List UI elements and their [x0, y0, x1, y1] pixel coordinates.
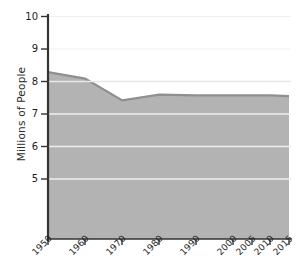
y-tick-label-5: 5 [20, 174, 38, 184]
y-tick-label-10: 10 [20, 12, 38, 22]
y-tick-label-7: 7 [20, 109, 38, 119]
y-tick-label-8: 8 [20, 77, 38, 87]
area-chart: Millions of People 10 9 8 7 6 5 [0, 0, 302, 277]
y-tick-label-6: 6 [20, 142, 38, 152]
area-fill [48, 72, 289, 239]
y-tick-label-9: 9 [20, 44, 38, 54]
